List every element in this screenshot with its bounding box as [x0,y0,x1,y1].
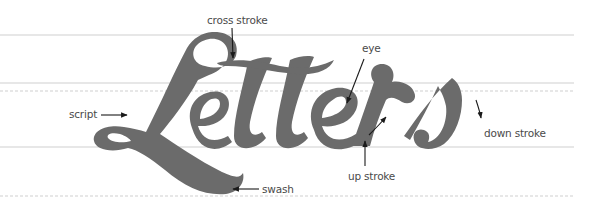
letter-anatomy-diagram: cross stroke eye script down stroke up s… [0,0,596,213]
label-up-stroke: up stroke [348,171,395,182]
letter-e-1 [190,91,232,148]
label-cross-stroke: cross stroke [207,15,267,26]
letter-e-2 [311,88,360,150]
letter-r [352,64,415,146]
cross-stroke [217,60,334,74]
diagram-canvas [0,0,596,213]
letter-t-1 [234,57,272,148]
label-down-stroke: down stroke [484,128,546,139]
script-lettering [94,32,462,194]
label-eye: eye [362,43,381,54]
label-script: script [69,109,97,120]
label-swash: swash [262,184,294,195]
letter-s [404,78,462,149]
down-stroke-arrow [476,100,481,118]
